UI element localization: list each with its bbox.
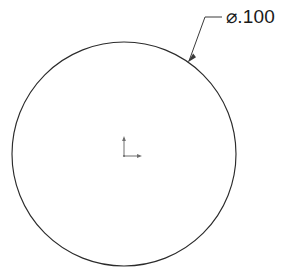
origin-point (123, 155, 125, 157)
cad-drawing-canvas[interactable]: ⌀.100 (0, 0, 289, 277)
leader-arrowhead-icon (188, 54, 197, 63)
diameter-leader[interactable] (188, 17, 223, 63)
diameter-dimension-label[interactable]: ⌀.100 (226, 6, 275, 27)
origin-up-arrow-icon (122, 136, 126, 141)
origin-right-arrow-icon (137, 154, 142, 158)
leader-polyline (189, 17, 222, 61)
drawing-viewport[interactable]: ⌀.100 (0, 0, 289, 277)
origin-axis-marker[interactable] (122, 136, 142, 158)
